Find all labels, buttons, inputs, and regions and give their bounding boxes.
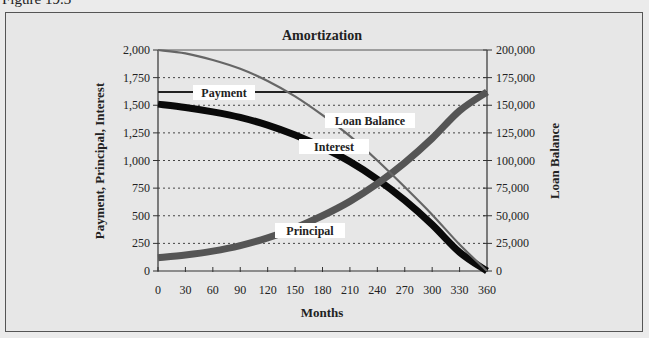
label-text: Principal [286,224,334,238]
x-tick-label: 0 [155,283,161,297]
y-right-tick-label: 200,000 [496,43,535,57]
chart-title: Amortization [282,28,362,43]
y-left-tick-label: 500 [132,209,150,223]
label-principal: Principal [275,223,345,238]
x-tick-label: 30 [179,283,191,297]
amortization-chart: 02505007501,0001,2501,5001,7502,000025,0… [0,0,649,338]
y-right-tick-label: 125,000 [496,126,535,140]
x-axis-label: Months [301,305,344,320]
y-right-tick-label: 100,000 [496,154,535,168]
x-tick-label: 270 [396,283,414,297]
label-text: Loan Balance [335,114,406,128]
label-payment: Payment [193,85,255,100]
label-text: Payment [201,86,246,100]
y-left-tick-label: 1,750 [123,71,150,85]
y-left-tick-label: 1,250 [123,126,150,140]
y-right-tick-label: 0 [496,264,502,278]
y-right-tick-label: 175,000 [496,71,535,85]
x-tick-label: 210 [341,283,359,297]
y-axis-right-label: Loan Balance [547,123,562,199]
series-labels: PaymentLoan BalanceInterestPrincipal [193,85,415,238]
y-left-tick-label: 750 [132,181,150,195]
x-tick-label: 120 [259,283,277,297]
x-tick-label: 360 [478,283,496,297]
x-tick-label: 90 [234,283,246,297]
y-right-tick-label: 50,000 [496,209,529,223]
label-interest: Interest [299,139,369,154]
x-tick-label: 60 [207,283,219,297]
label-loan-balance: Loan Balance [325,113,415,128]
y-left-tick-label: 1,500 [123,98,150,112]
y-left-tick-label: 250 [132,236,150,250]
y-left-tick-label: 0 [144,264,150,278]
y-right-tick-label: 150,000 [496,98,535,112]
x-tick-label: 240 [368,283,386,297]
y-left-tick-label: 1,000 [123,154,150,168]
x-tick-label: 330 [451,283,469,297]
y-right-tick-label: 25,000 [496,236,529,250]
x-tick-label: 150 [286,283,304,297]
y-right-tick-label: 75,000 [496,181,529,195]
y-left-tick-label: 2,000 [123,43,150,57]
x-tick-label: 180 [314,283,332,297]
y-axis-left-label: Payment, Principal, Interest [92,82,107,239]
label-text: Interest [314,140,354,154]
x-tick-label: 300 [423,283,441,297]
